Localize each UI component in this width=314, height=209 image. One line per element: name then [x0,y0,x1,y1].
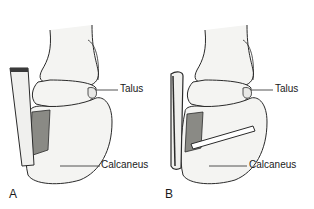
panel-letter-b: B [165,188,173,200]
strut [10,68,34,166]
calcaneus-label: Calcaneus [249,160,296,170]
calcaneus-label: Calcaneus [101,160,148,170]
panel-a: Talus Calcaneus A [0,0,157,209]
strut-top [10,68,28,72]
talus-label: Talus [120,84,143,94]
panel-b: Talus Calcaneus B [157,0,314,209]
ankle-illustration-a [0,0,157,209]
ankle-illustration-b [157,0,314,209]
panel-letter-a: A [9,188,17,200]
tibia-bone [195,25,253,86]
talus-head [243,87,252,98]
talus-head [88,87,97,98]
talus-label: Talus [275,84,298,94]
tibia-bone [40,25,98,86]
